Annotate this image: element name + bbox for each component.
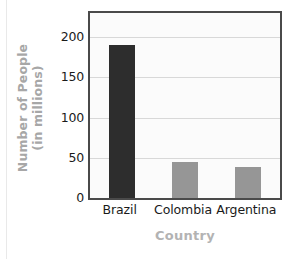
y-axis-tick-labels: 050100150200	[50, 0, 84, 259]
y-axis-tick-label: 50	[50, 151, 84, 164]
page-margin-rule	[6, 0, 7, 259]
plot-area	[88, 11, 282, 200]
x-axis-tick-label: Argentina	[215, 202, 278, 218]
x-axis-tick-labels: BrazilColombiaArgentina	[88, 202, 282, 222]
y-axis-title-line-1: Number of People	[15, 44, 30, 172]
x-axis-tick-label: Colombia	[151, 202, 214, 218]
y-axis-title: Number of People (in millions)	[8, 18, 52, 198]
y-axis-title-line-2: (in millions)	[30, 44, 45, 172]
y-axis-tick-label: 0	[50, 191, 84, 204]
bar-chart-figure: Number of People (in millions) 050100150…	[0, 0, 293, 259]
bar-brazil	[109, 45, 135, 198]
x-axis-tick-label: Brazil	[88, 202, 151, 218]
y-axis-tick-label: 150	[50, 70, 84, 83]
gridline	[90, 37, 280, 38]
bar-argentina	[235, 167, 261, 198]
y-axis-tick-label: 100	[50, 111, 84, 124]
y-axis-tick-label: 200	[50, 30, 84, 43]
x-axis-title: Country	[88, 228, 282, 243]
bar-colombia	[172, 162, 198, 198]
